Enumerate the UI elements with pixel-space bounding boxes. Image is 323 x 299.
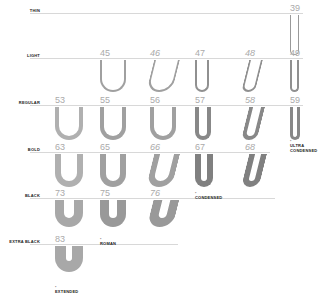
weight-number: 59 [290, 95, 300, 105]
row-divider [30, 152, 270, 153]
weight-number: 83 [55, 234, 65, 244]
width-tag: •EXTENDED [55, 284, 89, 294]
row-divider [30, 58, 303, 59]
weight-number: 53 [55, 95, 65, 105]
weight-number: 65 [100, 142, 110, 152]
weight-number: 63 [55, 142, 65, 152]
weight-number: 58 [245, 95, 255, 105]
weight-number: 47 [195, 48, 205, 58]
letter-u-glyph [150, 107, 176, 140]
width-tag-label: CONDENSED [195, 195, 222, 200]
letter-u-glyph [147, 200, 180, 227]
row-divider [30, 13, 303, 14]
width-tag: •CONDENSED [195, 190, 229, 200]
weight-number: 68 [245, 142, 255, 152]
width-tag-label: ULTRA CONDENSED [290, 143, 317, 153]
weight-number: 73 [55, 188, 65, 198]
weight-number: 49 [290, 48, 300, 58]
letter-u-glyph [146, 60, 180, 92]
row-divider [30, 198, 275, 199]
letter-u-glyph [241, 60, 263, 92]
letter-u-glyph [55, 154, 83, 187]
weight-number: 45 [100, 48, 110, 58]
row-divider [30, 105, 303, 106]
weight-number: 48 [245, 48, 255, 58]
width-tag-label: ROMAN [100, 241, 116, 246]
weight-number: 75 [100, 188, 110, 198]
width-tag: •ULTRA CONDENSED [290, 138, 323, 153]
letter-u-glyph [195, 154, 213, 187]
letter-u-glyph [195, 107, 211, 140]
letter-u-glyph [195, 60, 209, 92]
letter-u-glyph [55, 246, 83, 272]
weight-number: 55 [100, 95, 110, 105]
weight-number: 39 [290, 3, 300, 13]
letter-u-glyph [100, 107, 126, 140]
letter-u-glyph [290, 60, 299, 92]
letter-u-glyph [290, 107, 300, 140]
width-tag-label: EXTENDED [55, 289, 78, 294]
weight-number: 66 [150, 142, 160, 152]
weight-number: 46 [150, 48, 160, 58]
letter-u-glyph [241, 154, 267, 187]
weight-number: 57 [195, 95, 205, 105]
weight-number: 67 [195, 142, 205, 152]
width-tag: •ROMAN [100, 236, 134, 246]
letter-u-glyph [55, 200, 83, 227]
letter-u-glyph [100, 60, 126, 92]
letter-u-glyph [146, 154, 180, 187]
letter-u-glyph [100, 200, 126, 227]
letter-u-glyph [55, 107, 83, 140]
letter-u-glyph [241, 107, 265, 140]
weight-number: 56 [150, 95, 160, 105]
letter-u-glyph [100, 154, 126, 187]
weight-number: 76 [150, 188, 160, 198]
